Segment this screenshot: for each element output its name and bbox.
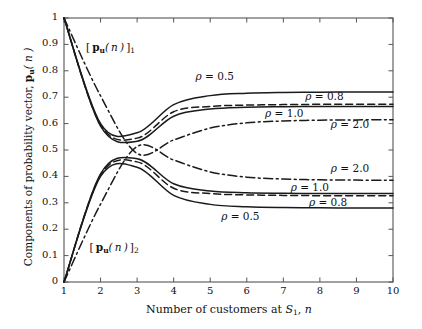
x-tick-label: 4 [163, 285, 185, 296]
y-tick-label: 0.2 [30, 222, 58, 233]
annotation-upper-rho-05: ρ = 0.5 [196, 70, 234, 82]
annotation-upper-rho-10: ρ = 1.0 [265, 107, 303, 119]
annotation-upper-rho-20: ρ = 2.0 [331, 118, 369, 130]
annotation-vector-component-2: [ pu( n ) ]2 [90, 241, 139, 255]
x-axis-label-tail: , [298, 303, 305, 316]
annotation-lower-rho-10: ρ = 1.0 [291, 181, 329, 193]
y-tick-label: 0.1 [30, 249, 58, 260]
x-tick-label: 1 [53, 285, 75, 296]
y-tick-label: 0.9 [30, 37, 58, 48]
x-tick-label: 3 [126, 285, 148, 296]
x-tick-label: 2 [90, 285, 112, 296]
annotation-lower-rho-08: ρ = 0.8 [309, 196, 347, 208]
x-tick-label: 6 [236, 285, 258, 296]
x-tick-label: 9 [345, 285, 367, 296]
x-axis-label: Number of customers at S1, n [64, 303, 394, 317]
annotation-lower-rho-20: ρ = 2.0 [331, 162, 369, 174]
y-tick-label: 0.3 [30, 196, 58, 207]
x-tick-label: 10 [382, 285, 404, 296]
x-tick-label: 5 [199, 285, 221, 296]
y-axis-label-symbol: p [22, 75, 34, 82]
y-tick-label: 0.8 [30, 64, 58, 75]
x-axis-label-var: n [305, 303, 312, 316]
annotation-upper-rho-08: ρ = 0.8 [305, 90, 343, 102]
y-tick-label: 1 [30, 11, 58, 22]
y-tick-label: 0.4 [30, 169, 58, 180]
x-axis-label-text: Number of customers at [146, 303, 285, 316]
x-tick-label: 8 [309, 285, 331, 296]
figure-container: Components of probability vector, pu( n … [0, 0, 422, 329]
x-axis-label-symbol: S [285, 303, 293, 316]
y-tick-label: 0.5 [30, 143, 58, 154]
x-tick-label: 7 [272, 285, 294, 296]
annotation-vector-component-1: [ pu( n ) ]1 [86, 41, 135, 55]
y-tick-label: 0.6 [30, 117, 58, 128]
y-tick-label: 0.7 [30, 90, 58, 101]
annotation-lower-rho-05: ρ = 0.5 [221, 210, 259, 222]
